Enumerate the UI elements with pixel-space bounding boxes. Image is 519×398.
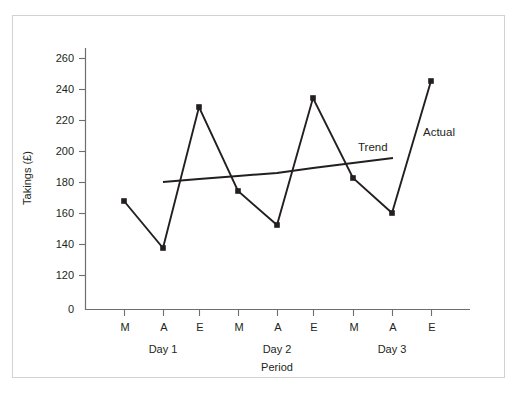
- trend-series-annotation: Trend: [358, 141, 388, 153]
- x-tick-label: M: [113, 322, 137, 333]
- x-group-label-day-3: Day 3: [362, 344, 422, 355]
- y-tick-label: 120: [44, 270, 74, 281]
- y-tick-label: 220: [44, 115, 74, 126]
- chart-plot-area: [0, 0, 519, 398]
- x-tick-marks: [125, 310, 432, 317]
- data-point-marker: [160, 245, 166, 251]
- y-tick-label: 240: [44, 84, 74, 95]
- x-tick-label: E: [188, 322, 212, 333]
- data-point-marker: [274, 222, 280, 228]
- data-point-marker: [310, 95, 316, 101]
- x-axis-title: Period: [237, 361, 317, 373]
- x-tick-label: A: [381, 322, 405, 333]
- data-point-marker: [196, 104, 202, 110]
- x-tick-label: M: [342, 322, 366, 333]
- data-point-marker: [235, 188, 241, 194]
- actual-series-annotation: Actual: [423, 126, 455, 138]
- trend-series-line: [163, 158, 393, 182]
- data-point-marker: [389, 210, 395, 216]
- x-tick-label: A: [266, 322, 290, 333]
- y-tick-label: 200: [44, 146, 74, 157]
- data-point-marker: [350, 175, 356, 181]
- data-point-marker: [121, 198, 127, 204]
- y-axis-title: Takings (£): [21, 138, 33, 218]
- y-tick-label: 180: [44, 177, 74, 188]
- y-tick-label: 0: [44, 304, 74, 315]
- x-tick-label: A: [152, 322, 176, 333]
- x-tick-label: M: [227, 322, 251, 333]
- x-tick-label: E: [420, 322, 444, 333]
- x-tick-label: E: [302, 322, 326, 333]
- x-group-label-day-1: Day 1: [133, 344, 193, 355]
- y-tick-label: 140: [44, 239, 74, 250]
- y-tick-label: 260: [44, 53, 74, 64]
- y-tick-label: 160: [44, 208, 74, 219]
- y-tick-marks: [79, 59, 86, 276]
- x-group-label-day-2: Day 2: [247, 344, 307, 355]
- data-point-marker: [428, 78, 434, 84]
